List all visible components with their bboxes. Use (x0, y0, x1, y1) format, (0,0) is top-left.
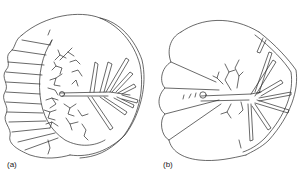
panel-b-label: (b) (163, 160, 173, 169)
panel-a: (a) (0, 0, 152, 178)
panel-b: (b) (151, 0, 303, 178)
panel-a-label: (a) (7, 160, 17, 169)
panel-b-drawing (151, 0, 303, 178)
panel-a-drawing (0, 0, 152, 178)
